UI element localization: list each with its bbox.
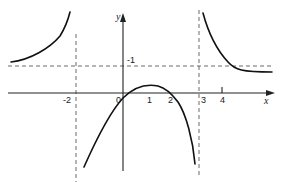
tick-label-neg-two: -2	[63, 95, 71, 105]
curve-branch-right	[203, 13, 272, 72]
y-axis-label: y	[115, 11, 121, 22]
tick-label-three: 3	[201, 95, 206, 105]
x-axis-label: x	[263, 95, 269, 106]
tick-label-one: 1	[147, 95, 152, 105]
y-axis-arrow-icon	[120, 13, 126, 22]
tick-label-two: 2	[168, 95, 173, 105]
tick-label-four: 4	[220, 95, 225, 105]
curve-branch-middle	[84, 85, 195, 167]
curve-branch-left	[11, 12, 70, 62]
tick-label-neg-one: -1	[127, 55, 135, 65]
tick-label-zero: 0	[116, 95, 121, 105]
function-graph: y x -1 -2 0 1 2 3 4	[0, 0, 281, 182]
